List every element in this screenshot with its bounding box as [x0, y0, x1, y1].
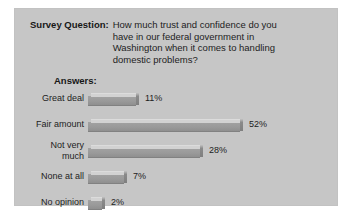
bar-top-face: [91, 145, 203, 149]
bar-end-cap: [124, 171, 127, 183]
bar-row-label: Not very much: [0, 140, 84, 161]
bar-wrapper: [88, 145, 203, 154]
bar-end-cap: [136, 93, 139, 105]
survey-question-label: Survey Question:: [30, 19, 113, 31]
bar-row: No opinion 2%: [14, 192, 338, 218]
bar-value-label: 28%: [209, 145, 227, 156]
question-line-3: Washington when it comes to handling: [113, 42, 326, 54]
bar-wrapper: [88, 119, 243, 128]
question-line-2: have in our federal government in: [113, 31, 326, 43]
bar-end-cap: [240, 119, 243, 131]
question-line-4: domestic problems?: [113, 54, 326, 66]
bar-rows: Great deal 11% Fair amount: [14, 88, 338, 218]
bar-top-face: [91, 171, 127, 175]
bar-front-face: [88, 122, 240, 132]
bar-front-face: [88, 174, 124, 184]
bar-value-label: 52%: [249, 119, 267, 130]
question-line-1: How much trust and confidence do you: [113, 19, 326, 31]
bar-row: Fair amount 52%: [14, 114, 338, 140]
bar-3d: [88, 171, 127, 180]
bar-row: None at all 7%: [14, 166, 338, 192]
bar-3d: [88, 119, 243, 128]
bar-row-label: Great deal: [0, 93, 84, 104]
bar-row-label: Fair amount: [0, 119, 84, 130]
bar-row: Great deal 11%: [14, 88, 338, 114]
survey-question-block: Survey Question: How much trust and conf…: [30, 19, 326, 65]
chart-panel: Survey Question: How much trust and conf…: [14, 8, 338, 206]
bar-3d: [88, 197, 105, 206]
bar-end-cap: [200, 145, 203, 157]
bar-wrapper: [88, 197, 105, 206]
survey-question-text: How much trust and confidence do you hav…: [113, 19, 326, 65]
bar-top-face: [91, 93, 139, 97]
bar-row-label: No opinion: [0, 197, 84, 208]
survey-question-row: Survey Question: How much trust and conf…: [30, 19, 326, 65]
bar-front-face: [88, 200, 102, 210]
answers-heading: Answers:: [54, 75, 97, 86]
bar-3d: [88, 145, 203, 154]
survey-chart-figure: Survey Question: How much trust and conf…: [0, 0, 346, 224]
bar-row-label: None at all: [0, 171, 84, 182]
bar-row: Not very much 28%: [14, 140, 338, 166]
bar-value-label: 2%: [111, 197, 124, 208]
bar-top-face: [91, 119, 243, 123]
bar-wrapper: [88, 171, 127, 180]
bar-wrapper: [88, 93, 139, 102]
bar-3d: [88, 93, 139, 102]
bar-value-label: 11%: [145, 93, 162, 104]
bar-value-label: 7%: [133, 171, 146, 182]
bar-front-face: [88, 96, 136, 106]
bar-end-cap: [102, 197, 105, 209]
bar-front-face: [88, 148, 200, 158]
